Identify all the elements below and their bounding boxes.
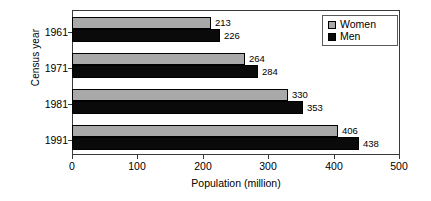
x-tick-mark-300 bbox=[268, 155, 269, 159]
legend-label-women: Women bbox=[340, 19, 376, 30]
bar-men-1961[interactable] bbox=[72, 29, 220, 42]
bar-value-men-1981: 353 bbox=[307, 103, 323, 113]
population-bar-chart: Census year 1961 1971 1981 1991 213 226 … bbox=[0, 0, 431, 201]
chart-legend: Women Men bbox=[322, 15, 398, 46]
x-tick-label-500: 500 bbox=[379, 160, 419, 172]
x-axis-title: Population (million) bbox=[72, 177, 400, 189]
x-tick-label-0: 0 bbox=[52, 160, 92, 172]
y-tick-label-1961: 1961 bbox=[28, 27, 68, 38]
y-axis-tick-labels: 1961 1971 1981 1991 bbox=[24, 10, 68, 155]
bar-men-1981[interactable] bbox=[72, 101, 303, 114]
y-tick-label-1971: 1971 bbox=[28, 63, 68, 74]
bar-group-1971: 264 284 bbox=[72, 46, 400, 82]
legend-swatch-women-icon bbox=[328, 21, 336, 29]
x-tick-label-200: 200 bbox=[183, 160, 223, 172]
y-tick-label-1991: 1991 bbox=[28, 135, 68, 146]
bar-women-1971[interactable] bbox=[72, 53, 245, 65]
bar-women-1991[interactable] bbox=[72, 125, 338, 137]
bar-value-men-1971: 284 bbox=[262, 67, 278, 77]
bar-value-women-1961: 213 bbox=[215, 18, 231, 28]
bar-group-1981: 330 353 bbox=[72, 82, 400, 118]
x-tick-label-100: 100 bbox=[117, 160, 157, 172]
legend-item-men[interactable]: Men bbox=[328, 31, 393, 42]
bar-value-men-1961: 226 bbox=[224, 31, 240, 41]
x-tick-mark-100 bbox=[137, 155, 138, 159]
legend-item-women[interactable]: Women bbox=[328, 19, 393, 30]
bar-value-women-1981: 330 bbox=[292, 90, 308, 100]
x-tick-mark-500 bbox=[399, 155, 400, 159]
bar-women-1961[interactable] bbox=[72, 17, 211, 29]
x-tick-label-400: 400 bbox=[314, 160, 354, 172]
legend-label-men: Men bbox=[340, 31, 360, 42]
bar-value-women-1991: 406 bbox=[342, 126, 358, 136]
bar-value-women-1971: 264 bbox=[249, 54, 265, 64]
x-tick-label-300: 300 bbox=[248, 160, 288, 172]
x-tick-mark-0 bbox=[72, 155, 73, 159]
x-axis-tick-labels: 0 100 200 300 400 500 bbox=[72, 160, 400, 174]
bar-men-1971[interactable] bbox=[72, 65, 258, 78]
x-tick-mark-200 bbox=[203, 155, 204, 159]
bar-women-1981[interactable] bbox=[72, 89, 288, 101]
x-tick-mark-400 bbox=[334, 155, 335, 159]
bar-group-1991: 406 438 bbox=[72, 118, 400, 154]
bar-men-1991[interactable] bbox=[72, 137, 359, 150]
bar-value-men-1991: 438 bbox=[363, 139, 379, 149]
y-tick-label-1981: 1981 bbox=[28, 99, 68, 110]
legend-swatch-men-icon bbox=[328, 33, 336, 41]
